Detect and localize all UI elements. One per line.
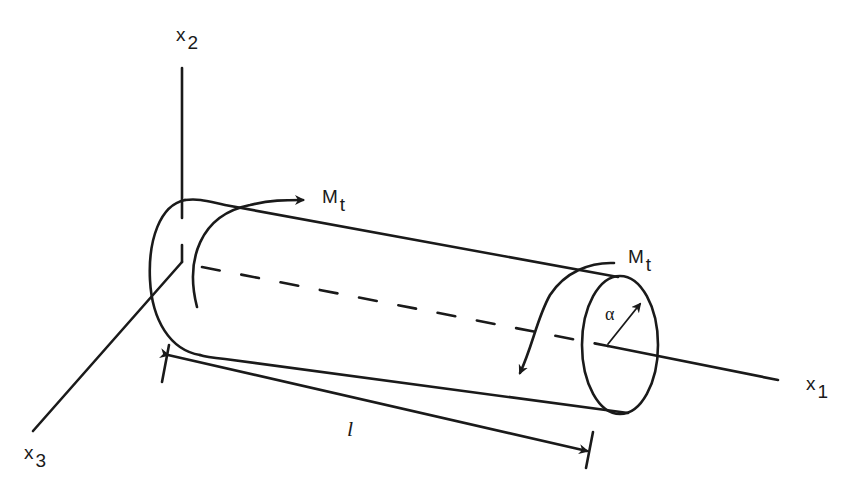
left-moment-label: Mt	[322, 187, 345, 206]
cylinder-top-edge	[185, 199, 618, 277]
x1-axis-label: x1	[806, 374, 828, 393]
x3-axis-label: x3	[24, 443, 46, 462]
right-moment-arrow	[520, 263, 614, 373]
length-dimension-line	[168, 355, 587, 451]
x1-axis-line	[608, 346, 778, 380]
cylinder-bottom-edge	[200, 355, 628, 413]
right-moment-label: Mt	[628, 247, 651, 266]
x1-axis-dashed	[202, 267, 608, 346]
radius-label: α	[605, 305, 614, 323]
x2-axis-label: x2	[176, 25, 198, 44]
length-label: l	[347, 418, 353, 440]
length-tick-left	[162, 345, 169, 382]
cylinder-right-cap	[582, 276, 658, 414]
torsion-cylinder-diagram	[0, 0, 847, 498]
x3-axis-line	[33, 262, 182, 431]
